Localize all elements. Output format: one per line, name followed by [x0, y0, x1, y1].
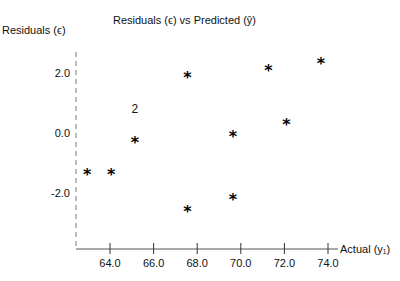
data-point-star: *: [107, 165, 116, 184]
y-tick-label: 0.0: [55, 127, 70, 139]
x-tick-label: 72.0: [274, 257, 295, 269]
data-point-star: *: [229, 127, 238, 146]
y-tick-label: -2.0: [51, 187, 70, 199]
x-tick-label: 66.0: [143, 257, 164, 269]
data-point-star: *: [131, 133, 140, 152]
overlap-count-label: 2: [132, 102, 139, 116]
plot-area: 64.066.068.070.072.074.02.00.0-2.0******…: [0, 0, 400, 281]
x-tick-label: 74.0: [317, 257, 338, 269]
y-tick-label: 2.0: [55, 67, 70, 79]
x-tick-label: 70.0: [230, 257, 251, 269]
data-point-star: *: [264, 61, 273, 80]
data-point-star: *: [83, 165, 92, 184]
data-point-star: *: [229, 190, 238, 209]
x-tick-label: 64.0: [99, 257, 120, 269]
x-tick-label: 68.0: [186, 257, 207, 269]
data-point-star: *: [183, 68, 192, 87]
data-point-star: *: [282, 115, 291, 134]
data-point-star: *: [317, 54, 326, 73]
residual-scatter-chart: Residuals (ϵ) vs Predicted (ŷ) Residuals…: [0, 0, 400, 281]
data-point-star: *: [183, 202, 192, 221]
